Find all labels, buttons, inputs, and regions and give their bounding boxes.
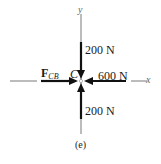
point-c-label: C [70,68,78,80]
top-force-label: 200 N [85,44,115,56]
fcb-label: FCB [41,67,59,81]
bottom-force-label: 200 N [85,105,115,117]
y-axis-label: y [78,5,82,15]
point-c-marker [79,79,82,82]
fcb-subscript: CB [48,72,58,81]
right-force-label: 600 N [98,70,128,82]
x-axis-label: x [146,75,150,85]
bottom-force-arrow [77,83,85,119]
top-force-arrow [77,42,85,79]
figure-caption: (e) [75,140,86,150]
